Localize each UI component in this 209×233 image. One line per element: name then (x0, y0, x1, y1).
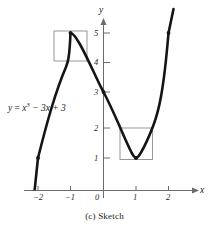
y-tick-label-2: 2 (94, 124, 98, 133)
y-tick-label-3: 3 (94, 88, 98, 97)
x-tick-label--1: −1 (65, 193, 75, 202)
y-axis-label: y (99, 6, 103, 16)
y-tick-label-1: 1 (94, 154, 98, 163)
equation-equals: = (15, 103, 20, 113)
x-axis-label: x (200, 186, 204, 196)
sketch-figure: −2 −1 0 1 2 5 4 3 2 1 y x y = x3 − 3x + … (0, 0, 209, 233)
y-axis (101, 18, 111, 198)
marker-left-endpoint (36, 156, 40, 160)
x-tick-label-0: 0 (95, 193, 99, 202)
equation-lhs: y (8, 103, 12, 113)
y-tick-label-4: 4 (94, 58, 98, 67)
x-tick-label-1: 1 (133, 193, 137, 202)
min-box (120, 128, 153, 160)
x-tick-label--2: −2 (33, 193, 43, 202)
marker-local-minimum (134, 156, 138, 160)
figure-caption: (c) Sketch (0, 212, 209, 221)
equation-annotation: y = x3 − 3x + 3 (8, 104, 66, 114)
equation-exponent: 3 (27, 101, 30, 108)
x-axis (24, 186, 199, 194)
y-tick-label-5: 5 (94, 29, 98, 38)
marker-local-maximum (69, 31, 73, 35)
equation-rest: − 3x + 3 (32, 103, 66, 113)
cubic-curve (35, 9, 174, 189)
marker-y-intercept (102, 90, 106, 94)
x-tick-label-2: 2 (166, 193, 170, 202)
plot-canvas (0, 0, 209, 233)
marker-right-point (167, 31, 171, 35)
